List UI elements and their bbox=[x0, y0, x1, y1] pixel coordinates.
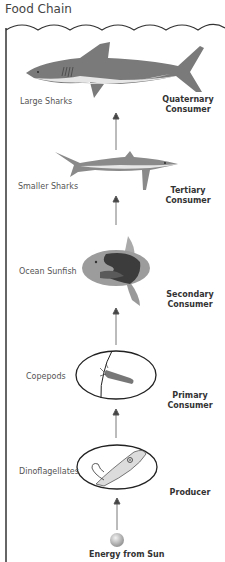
role-line: Consumer bbox=[158, 105, 218, 115]
ocean-sunfish-icon bbox=[82, 236, 150, 306]
organism-label-dinoflagellates: Dinoflagellates bbox=[19, 467, 79, 476]
role-line: Quaternary bbox=[158, 95, 218, 105]
role-label-producer: Producer bbox=[160, 488, 220, 498]
organism-label-ocean-sunfish: Ocean Sunfish bbox=[19, 267, 77, 276]
role-label-primary: Primary Consumer bbox=[160, 391, 220, 411]
role-line: Consumer bbox=[158, 196, 218, 206]
energy-flow-arrow bbox=[113, 308, 119, 345]
organism-label-copepods: Copepods bbox=[26, 372, 66, 381]
energy-flow-arrow bbox=[113, 196, 119, 225]
organism-label-smaller-sharks: Smaller Sharks bbox=[18, 182, 78, 191]
sun-icon bbox=[110, 533, 124, 547]
role-line: Consumer bbox=[160, 300, 220, 310]
water-surface-waves bbox=[6, 24, 225, 30]
role-label-secondary: Secondary Consumer bbox=[160, 290, 220, 310]
dinoflagellate-icon bbox=[77, 445, 157, 489]
energy-flow-arrow bbox=[114, 498, 120, 530]
role-label-quaternary: Quaternary Consumer bbox=[158, 95, 218, 115]
organism-label-large-sharks: Large Sharks bbox=[20, 97, 72, 106]
role-line: Producer bbox=[160, 488, 220, 498]
food-chain-diagram bbox=[0, 0, 225, 562]
role-line: Consumer bbox=[160, 401, 220, 411]
energy-flow-arrow bbox=[113, 409, 119, 438]
energy-source-label: Energy from Sun bbox=[89, 550, 164, 559]
role-line: Tertiary bbox=[158, 186, 218, 196]
role-line: Primary bbox=[160, 391, 220, 401]
large-shark-icon bbox=[26, 42, 204, 98]
role-line: Secondary bbox=[160, 290, 220, 300]
copepod-icon bbox=[76, 351, 156, 399]
energy-flow-arrow bbox=[113, 113, 119, 150]
role-label-tertiary: Tertiary Consumer bbox=[158, 186, 218, 206]
